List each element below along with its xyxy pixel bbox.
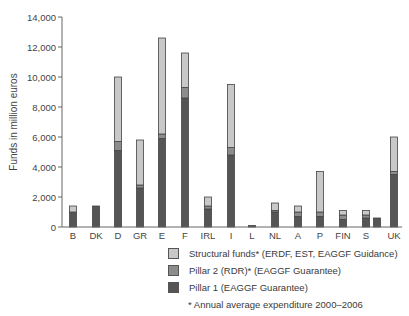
bar-UK — [391, 137, 398, 227]
bar-E — [159, 38, 166, 227]
legend-item-pillar1: Pillar 1 (EAGGF Guarantee) — [168, 279, 408, 296]
bar-F — [182, 53, 189, 227]
x-axis: BDKDGREFIRLILNLAPFINSUK — [62, 227, 402, 240]
bar-B — [70, 206, 77, 227]
bar-segment — [295, 217, 302, 228]
bar-segment — [182, 98, 189, 227]
bar-segment — [363, 215, 370, 218]
legend: Structural funds* (ERDF, EST, EAGGF Guid… — [168, 245, 408, 313]
bar-unlabeled — [374, 218, 381, 227]
bar-segment — [228, 155, 235, 227]
x-tick-label: S — [363, 230, 369, 240]
bar-segment — [391, 137, 398, 172]
bar-IRL — [205, 197, 212, 227]
bar-segment — [159, 38, 166, 134]
y-axis-label: Funds in million euros — [8, 73, 19, 170]
bar-segment — [93, 206, 100, 227]
bar-segment — [391, 172, 398, 175]
x-tick-label: IRL — [201, 230, 216, 240]
x-tick-label: P — [317, 230, 323, 240]
legend-note: * Annual average expenditure 2000–2006 — [168, 296, 408, 313]
y-tick-label: 8,000 — [32, 102, 56, 113]
x-tick-label: F — [182, 230, 188, 240]
x-tick-label: E — [159, 230, 165, 240]
bar-segment — [205, 209, 212, 227]
bar-segment — [70, 212, 77, 227]
swatch-pillar2 — [168, 265, 179, 276]
y-tick-label: 10,000 — [27, 72, 56, 83]
stacked-bar-chart: 02,0004,0006,0008,00010,00012,00014,000 … — [0, 0, 409, 240]
bar-segment — [317, 217, 324, 228]
x-tick-label: I — [230, 230, 233, 240]
bar-DK — [93, 206, 100, 227]
y-tick-label: 2,000 — [32, 192, 56, 203]
bar-segment — [340, 215, 347, 220]
legend-label: Pillar 2 (RDR)* (EAGGF Guarantee) — [189, 265, 341, 276]
bar-FIN — [340, 211, 347, 228]
x-tick-label: FIN — [335, 230, 350, 240]
y-tick-label: 0 — [51, 222, 56, 233]
bar-segment — [272, 212, 279, 227]
legend-item-pillar2: Pillar 2 (RDR)* (EAGGF Guarantee) — [168, 262, 408, 279]
bar-segment — [137, 140, 144, 185]
x-tick-label: B — [70, 230, 76, 240]
bar-segment — [115, 77, 122, 142]
x-tick-label: NL — [269, 230, 281, 240]
bar-segment — [295, 206, 302, 212]
bar-segment — [363, 218, 370, 227]
bar-NL — [272, 203, 279, 227]
bar-segment — [205, 197, 212, 206]
bars — [70, 38, 398, 227]
y-tick-label: 4,000 — [32, 162, 56, 173]
bar-segment — [137, 188, 144, 227]
bar-segment — [228, 85, 235, 148]
legend-item-structural: Structural funds* (ERDF, EST, EAGGF Guid… — [168, 245, 408, 262]
bar-segment — [159, 134, 166, 139]
bar-segment — [340, 220, 347, 228]
bar-segment — [295, 212, 302, 217]
bar-segment — [182, 88, 189, 99]
bar-segment — [374, 218, 381, 227]
bar-segment — [391, 175, 398, 228]
y-axis: 02,0004,0006,0008,00010,00012,00014,000 — [27, 12, 62, 233]
bar-segment — [317, 172, 324, 213]
x-tick-label: GR — [133, 230, 147, 240]
bar-S — [363, 211, 370, 228]
bar-P — [317, 172, 324, 228]
bar-segment — [317, 212, 324, 217]
bar-segment — [115, 142, 122, 151]
swatch-pillar1 — [168, 282, 179, 293]
bar-I — [228, 85, 235, 228]
swatch-structural — [168, 248, 179, 259]
bar-segment — [205, 206, 212, 209]
legend-label: Pillar 1 (EAGGF Guarantee) — [189, 282, 308, 293]
x-tick-label: L — [249, 230, 254, 240]
bar-segment — [137, 185, 144, 188]
y-tick-label: 14,000 — [27, 12, 56, 23]
x-tick-label: A — [295, 230, 302, 240]
x-tick-label: UK — [387, 230, 401, 240]
bar-segment — [272, 203, 279, 211]
bar-segment — [363, 211, 370, 216]
bar-segment — [115, 151, 122, 228]
bar-segment — [182, 53, 189, 88]
y-tick-label: 6,000 — [32, 132, 56, 143]
x-tick-label: D — [115, 230, 122, 240]
bar-segment — [70, 206, 77, 212]
bar-segment — [159, 139, 166, 228]
x-tick-label: DK — [89, 230, 103, 240]
bar-segment — [228, 148, 235, 156]
legend-label: Structural funds* (ERDF, EST, EAGGF Guid… — [189, 248, 398, 259]
bar-D — [115, 77, 122, 227]
y-tick-label: 12,000 — [27, 42, 56, 53]
bar-A — [295, 206, 302, 227]
bar-GR — [137, 140, 144, 227]
bar-segment — [340, 211, 347, 216]
